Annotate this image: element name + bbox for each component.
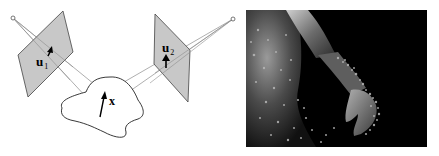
right-image-plane <box>154 14 190 102</box>
label-x: x <box>109 95 115 107</box>
u2-letter: u <box>162 40 169 55</box>
figure: u1 u2 x <box>0 0 439 156</box>
u1-letter: u <box>36 54 43 69</box>
label-u2: u2 <box>162 41 174 54</box>
left-camera-center <box>11 16 15 20</box>
label-u1: u1 <box>36 55 48 68</box>
x-letter: x <box>109 94 115 108</box>
left-image-plane <box>18 11 73 97</box>
body-render <box>246 10 427 147</box>
rendered-body-image <box>246 10 427 147</box>
stereo-geometry-diagram <box>0 0 246 156</box>
right-camera-center <box>231 17 235 21</box>
u1-subscript: 1 <box>44 62 48 71</box>
u2-subscript: 2 <box>170 48 174 57</box>
